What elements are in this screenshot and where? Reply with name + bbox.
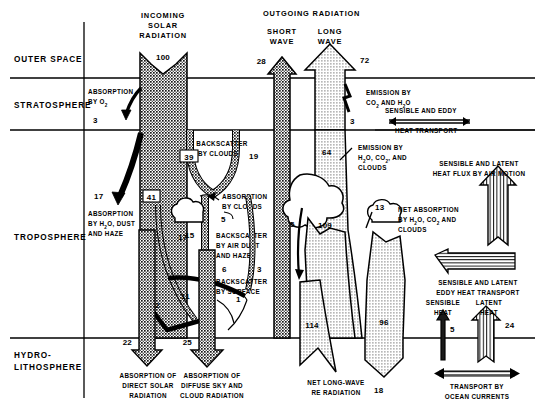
- eddy-arrowhead-left: [389, 117, 396, 126]
- value-15: 15: [185, 231, 195, 240]
- absorption-h2o-dust-shaft: [120, 133, 141, 196]
- caption-absorption-clouds-line1: ABSORPTION: [222, 193, 268, 200]
- caption-latent-heat-line1: LATENT: [476, 299, 502, 306]
- caption-backscatter-clouds-line1: BACKSCATTER: [196, 140, 247, 147]
- absorption-diffuse-sky-arrow: [191, 250, 223, 367]
- eddy-arrowhead-right: [463, 117, 470, 126]
- caption-net-long-wave-line2: RE RADIATION: [311, 389, 360, 396]
- value-6: 6: [222, 265, 227, 274]
- caption-absorption-clouds-line2: BY CLOUDS: [222, 203, 262, 210]
- cloud-shape-right: [368, 200, 402, 222]
- caption-abs-h2o-line1: ABSORPTION: [88, 210, 134, 217]
- value-1: 1: [236, 295, 241, 304]
- value-64: 64: [322, 148, 332, 157]
- caption-sensible-latent-air-line1: SENSIBLE AND LATENT: [439, 160, 518, 167]
- layer-label-outer-space: OUTER SPACE: [14, 55, 82, 64]
- value-22: 22: [123, 338, 133, 347]
- value-100: 100: [156, 53, 170, 62]
- ocean-transport-bar: [440, 371, 514, 376]
- caption-emission-co2-line1: EMISSION BY: [366, 89, 412, 96]
- energy-balance-diagram: OUTER SPACE STRATOSPHERE TROPOSPHERE HYD…: [0, 0, 545, 408]
- value-39: 39: [184, 153, 194, 162]
- caption-sensible-heat-line2: HEAT: [434, 309, 452, 316]
- caption-absorption-direct-line1: ABSORPTION OF: [119, 372, 176, 379]
- caption-net-long-wave-line1: NET LONG-WAVE: [307, 379, 364, 386]
- value-28: 28: [257, 57, 267, 66]
- long-wave-heading-line1: LONG: [318, 27, 343, 36]
- sensible-latent-air-motion-group: [480, 166, 516, 245]
- short-wave-heading-line2: WAVE: [270, 37, 294, 46]
- value-5-long: 5: [290, 220, 295, 229]
- caption-absorption-diffuse-line3: CLOUD RADIATION: [180, 392, 244, 399]
- column-96: [365, 232, 405, 377]
- sensible-latent-eddy-group: [435, 249, 515, 273]
- ocean-arrowhead-right: [510, 368, 520, 379]
- long-wave-heading-line2: WAVE: [318, 37, 342, 46]
- caption-absorption-direct-line3: RADIATION: [129, 392, 167, 399]
- incoming-heading-line1: INCOMING: [141, 11, 185, 20]
- ocean-arrowhead-left: [434, 368, 444, 379]
- value-5-sensible: 5: [450, 325, 455, 334]
- caption-absorption-o2-line1: ABSORPTION: [88, 88, 134, 95]
- incoming-heading-line3: RADIATION: [139, 31, 187, 40]
- eddy-heat-arrow: [435, 249, 515, 273]
- caption-absorption-diffuse-line1: ABSORPTION OF: [183, 372, 240, 379]
- caption-emission-h2o-line3: CLOUDS: [358, 164, 387, 171]
- absorption-h2o-dust-haze-flow: [112, 133, 141, 205]
- caption-net-absorption-line2: BY H2O, CO2 AND: [398, 216, 456, 226]
- value-41: 41: [147, 193, 157, 202]
- air-motion-arrow: [480, 166, 516, 245]
- caption-sensible-latent-eddy-line1: SENSIBLE AND LATENT: [438, 279, 517, 286]
- caption-sensible-latent-eddy-line2: EDDY HEAT TRANSPORT: [436, 289, 519, 296]
- caption-backscatter-air-line1: BACKSCATTER: [216, 232, 267, 239]
- value-109: 109: [318, 221, 332, 230]
- caption-net-absorption-line3: CLOUDS: [398, 226, 427, 233]
- value-72: 72: [360, 56, 370, 65]
- value-3-o2: 3: [93, 116, 98, 125]
- value-5-clouds: 5: [221, 215, 226, 224]
- absorption-o2-arrowhead: [122, 110, 132, 120]
- layer-label-stratosphere: STRATOSPHERE: [14, 101, 91, 110]
- caption-net-absorption-line1: NET ABSORPTION: [398, 206, 459, 213]
- value-24: 24: [505, 321, 515, 330]
- caption-abs-h2o-line3: AND HAZE: [88, 230, 123, 237]
- caption-latent-heat-line2: HEAT: [480, 309, 498, 316]
- caption-emission-h2o-line2: H2O, CO2, AND: [358, 154, 407, 164]
- value-18: 18: [374, 386, 384, 395]
- value-13: 13: [375, 203, 385, 212]
- caption-transport-ocean-line2: OCEAN CURRENTS: [445, 393, 509, 400]
- value-11: 11: [181, 292, 190, 301]
- caption-sensible-latent-air-line2: HEAT FLUX BY AIR MOTION: [433, 170, 526, 177]
- value-3-right: 3: [257, 265, 262, 274]
- value-96: 96: [379, 318, 389, 327]
- long-wave-96-flow: [365, 232, 405, 377]
- incoming-heading-line2: SOLAR: [148, 21, 178, 30]
- arrow-25: [191, 250, 223, 367]
- outgoing-heading: OUTGOING RADIATION: [263, 9, 360, 18]
- absorption-h2o-dust-arrowhead: [112, 192, 125, 205]
- caption-backscatter-surface-line1: BACKSCATTER: [216, 278, 267, 285]
- surface-small-curve: [217, 300, 234, 323]
- branch-5-arrowhead: [295, 269, 304, 280]
- sensible-heat-arrow: [437, 310, 449, 360]
- caption-backscatter-air-line3: AND HAZE: [216, 252, 251, 259]
- caption-emission-h2o-line1: EMISSION BY: [358, 144, 404, 151]
- short-wave-heading-line1: SHORT: [267, 27, 297, 36]
- value-25: 25: [183, 338, 193, 347]
- diagram-canvas: OUTER SPACE STRATOSPHERE TROPOSPHERE HYD…: [0, 0, 545, 408]
- caption-backscatter-surface-line2: BY SURFACE: [216, 288, 260, 295]
- layer-label-troposphere: TROPOSPHERE: [14, 233, 87, 242]
- transport-ocean-currents-group: [434, 368, 520, 379]
- caption-backscatter-clouds-line2: BY CLOUDS: [198, 150, 238, 157]
- caption-sensible-eddy-line1: SENSIBLE AND EDDY: [385, 107, 457, 114]
- value-17-left: 17: [94, 192, 104, 201]
- caption-transport-ocean-line1: TRANSPORT BY: [450, 383, 504, 390]
- value-19: 19: [249, 152, 259, 161]
- caption-absorption-direct-line2: DIRECT SOLAR: [122, 382, 174, 389]
- caption-sensible-eddy-line2: HEAT TRANSPORT: [395, 127, 458, 134]
- value-3-emission: 3: [350, 117, 355, 126]
- caption-absorption-diffuse-line2: DIFFUSE SKY AND: [181, 382, 243, 389]
- caption-sensible-heat-line1: SENSIBLE: [426, 299, 460, 306]
- layer-label-hydro-lithosphere-line1: HYDRO-: [14, 351, 52, 360]
- caption-abs-h2o-line2: BY H2O, DUST: [88, 220, 135, 230]
